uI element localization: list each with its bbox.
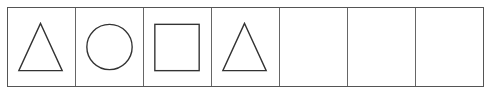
- sequence-cell-2: [76, 8, 144, 86]
- triangle-icon: [212, 8, 279, 86]
- sequence-cell-7-empty: [416, 8, 483, 86]
- circle-icon: [76, 8, 143, 86]
- triangle-icon: [8, 8, 75, 86]
- sequence-cell-5-empty: [280, 8, 348, 86]
- sequence-cell-1: [8, 8, 76, 86]
- shape-sequence-strip: [7, 7, 484, 87]
- sequence-cell-4: [212, 8, 280, 86]
- square-icon: [144, 8, 211, 86]
- sequence-cell-3: [144, 8, 212, 86]
- sequence-cell-6-empty: [348, 8, 416, 86]
